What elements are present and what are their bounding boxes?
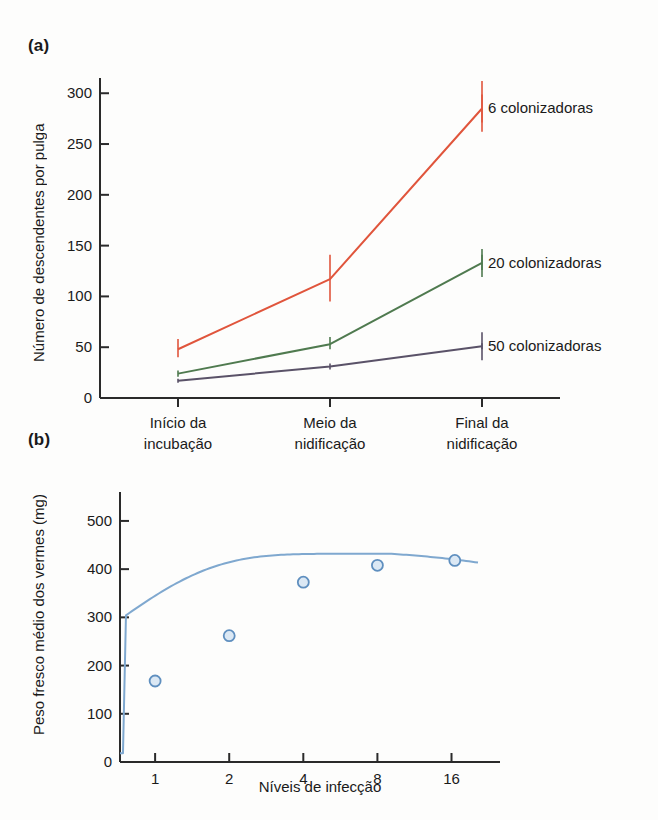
panel-b-data-point: [150, 676, 161, 687]
panel-b-y-tick-label: 200: [87, 657, 112, 674]
panel-b-data-point: [372, 560, 383, 571]
panel-b-y-tick-label: 300: [87, 608, 112, 625]
panel-b-data-point: [224, 630, 235, 641]
panel-b-y-tick-label: 100: [87, 705, 112, 722]
panel-b-data-point: [298, 577, 309, 588]
panel-b-x-tick-label: 4: [299, 770, 307, 787]
scientific-figure: (a) Número de descendentes por pulga 050…: [0, 0, 658, 820]
panel-b-x-tick-label: 16: [443, 770, 460, 787]
panel-b-x-tick-label: 2: [225, 770, 233, 787]
panel-b-plot: 0100200300400500124816: [0, 0, 658, 820]
panel-b-y-tick-label: 400: [87, 560, 112, 577]
panel-b-y-tick-label: 500: [87, 512, 112, 529]
panel-b-x-tick-label: 1: [151, 770, 159, 787]
panel-b-data-point: [449, 555, 460, 566]
panel-b-x-tick-label: 8: [373, 770, 381, 787]
panel-b-y-tick-label: 0: [104, 753, 112, 770]
